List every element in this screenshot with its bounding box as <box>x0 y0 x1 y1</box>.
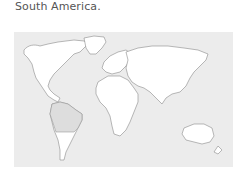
asia <box>126 46 208 104</box>
africa <box>96 76 138 136</box>
australia <box>182 124 214 144</box>
greenland <box>84 36 106 54</box>
world-map-graphic <box>14 32 233 167</box>
north-america <box>24 40 88 102</box>
caption-text: South America. <box>15 0 101 14</box>
new-zealand <box>214 146 222 154</box>
south-america-highlight <box>50 102 82 132</box>
world-map <box>14 32 233 167</box>
